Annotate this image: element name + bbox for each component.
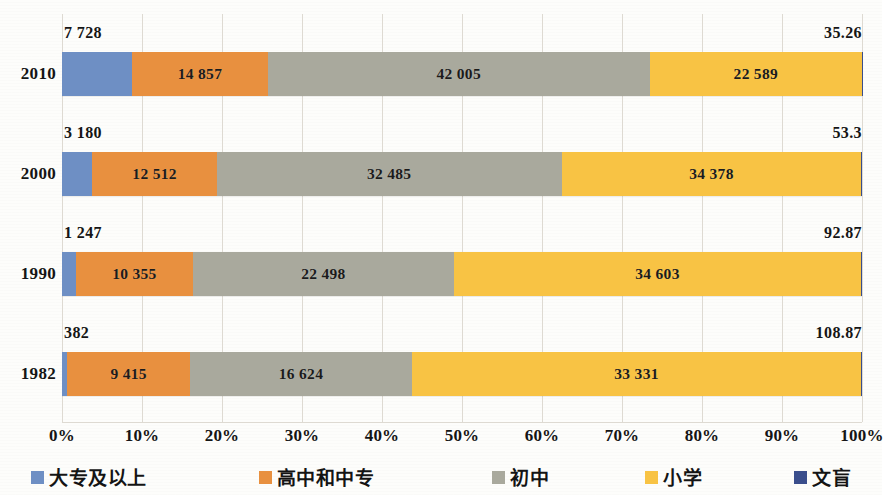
bar-end-value-label: 53.3 [832,124,862,142]
bar-segment[interactable]: 42 005 [268,52,650,96]
bar-segment[interactable]: 12 512 [92,152,216,196]
x-axis-tick-label: 50% [427,426,497,446]
x-axis-tick-label: 90% [747,426,817,446]
x-axis-tick-label: 40% [347,426,417,446]
category-label-2000: 2000 [0,164,56,184]
bar-segment[interactable]: 34 603 [454,252,861,296]
segment-value-label: 42 005 [437,65,481,83]
x-axis-tick-label: 60% [507,426,577,446]
legend-item-3[interactable]: 小学 [645,463,702,490]
legend-label: 大专及以上 [49,463,147,490]
bar-end-value-label: 108.87 [816,324,862,342]
segment-value-label: 32 485 [367,165,411,183]
bar-end-value-label: 92.87 [824,224,862,242]
bar-row: 10 35522 49834 6031 24792.87 [62,220,862,320]
bar-segment[interactable] [861,352,862,396]
bar-start-value-label: 3 180 [64,124,102,142]
segment-value-label: 14 857 [178,65,222,83]
legend-label: 文盲 [812,463,851,490]
bar-row: 12 51232 48534 3783 18053.3 [62,120,862,220]
legend-item-2[interactable]: 初中 [492,463,549,490]
legend-item-0[interactable]: 大专及以上 [31,463,147,490]
legend-swatch-icon [645,471,658,484]
bar-segment[interactable]: 32 485 [217,152,562,196]
legend-swatch-icon [259,471,272,484]
segment-value-label: 10 355 [112,265,156,283]
legend-swatch-icon [492,471,505,484]
x-axis-tick-label: 70% [587,426,657,446]
segment-value-label: 34 378 [689,165,733,183]
x-axis-tick-label: 0% [27,426,97,446]
legend-label: 高中和中专 [277,463,375,490]
segment-value-label: 12 512 [132,165,176,183]
bar-end-value-label: 35.26 [824,24,862,42]
bar-segment[interactable] [62,252,76,296]
bar-start-value-label: 7 728 [64,24,102,42]
chart-legend: 大专及以上高中和中专初中小学文盲 [0,459,882,493]
bar-segment[interactable]: 33 331 [412,352,861,396]
stacked-bar[interactable]: 12 51232 48534 378 [62,152,862,196]
legend-label: 小学 [663,463,702,490]
stacked-bar[interactable]: 14 85742 00522 589 [62,52,862,96]
bar-segment[interactable]: 34 378 [562,152,862,196]
category-label-1990: 1990 [0,264,56,284]
bar-segment[interactable] [861,252,862,296]
bar-start-value-label: 382 [64,324,89,342]
bar-row: 14 85742 00522 5897 72835.26 [62,20,862,120]
legend-label: 初中 [510,463,549,490]
x-axis-tick-label: 30% [267,426,337,446]
gridline [862,14,863,422]
bar-segment[interactable]: 10 355 [76,252,193,296]
segment-value-label: 9 415 [110,365,146,383]
plot-area: 14 85742 00522 5897 72835.2612 51232 485… [62,14,862,422]
bar-start-value-label: 1 247 [64,224,102,242]
x-axis-tick-label: 10% [107,426,177,446]
legend-item-1[interactable]: 高中和中专 [259,463,375,490]
bar-segment[interactable]: 22 498 [193,252,454,296]
segment-value-label: 16 624 [279,365,323,383]
stacked-bar[interactable]: 9 41516 62433 331 [62,352,862,396]
axis-baseline [62,422,862,423]
bar-segment[interactable] [62,152,92,196]
segment-value-label: 33 331 [614,365,658,383]
bar-segment[interactable] [62,52,132,96]
bar-segment[interactable]: 16 624 [190,352,412,396]
segment-value-label: 22 589 [734,65,778,83]
x-axis-tick-label: 100% [827,426,887,446]
stacked-bar[interactable]: 10 35522 49834 603 [62,252,862,296]
segment-value-label: 22 498 [301,265,345,283]
x-axis-tick-label: 80% [667,426,737,446]
x-axis-tick-label: 20% [187,426,257,446]
bar-segment[interactable]: 14 857 [132,52,267,96]
category-label-1982: 1982 [0,364,56,384]
bar-segment[interactable]: 9 415 [67,352,189,396]
segment-value-label: 34 603 [635,265,679,283]
bar-row: 9 41516 62433 331382108.87 [62,320,862,420]
legend-swatch-icon [31,471,44,484]
category-label-2010: 2010 [0,64,56,84]
legend-item-4[interactable]: 文盲 [794,463,851,490]
bar-segment[interactable] [861,152,862,196]
legend-swatch-icon [794,471,807,484]
bar-segment[interactable]: 22 589 [650,52,862,96]
